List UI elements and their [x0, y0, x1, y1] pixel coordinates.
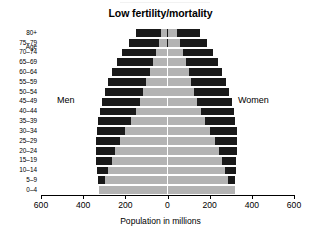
pyramid-row: [41, 68, 294, 76]
bar-men-inner: [108, 167, 167, 175]
bar-men-inner: [136, 108, 168, 116]
bar-women-inner: [168, 137, 215, 145]
bar-men-inner: [105, 176, 167, 184]
series-label-women: Women: [238, 95, 269, 105]
age-tick-label: 0–4: [26, 187, 37, 193]
bar-men-inner: [115, 147, 168, 155]
chart-title: Low fertility/mortality: [0, 7, 321, 19]
pyramid-row: [41, 39, 294, 47]
age-tick-label: 40–44: [19, 108, 37, 114]
pyramid-row: [41, 29, 294, 37]
bar-women-inner: [168, 98, 198, 106]
bar-women-inner: [168, 88, 195, 96]
age-tick-label: 20–24: [19, 148, 37, 154]
x-tick-label: 200: [202, 201, 216, 210]
pyramid-row: [41, 58, 294, 66]
x-tick: [83, 195, 84, 199]
bar-women-inner: [168, 117, 206, 125]
pyramid-row: [41, 147, 294, 155]
pyramid-row: [41, 157, 294, 165]
bar-men-inner: [153, 58, 168, 66]
x-tick: [294, 195, 295, 199]
bar-women-inner: [168, 176, 229, 184]
bar-men-inner: [159, 39, 167, 47]
age-axis: Age 80+75–7970–7465–6960–6455–5950–5445–…: [0, 28, 41, 195]
age-tick-label: 45–49: [19, 98, 37, 104]
pyramid-row: [41, 176, 294, 184]
age-tick-label: 50–54: [19, 89, 37, 95]
bar-women-inner: [168, 78, 192, 86]
age-tick-label: 80+: [26, 30, 37, 36]
x-tick-label: 200: [118, 201, 132, 210]
bar-men-inner: [143, 88, 167, 96]
pyramid-row: [41, 117, 294, 125]
age-tick-label: 35–39: [19, 118, 37, 124]
age-tick-label: 60–64: [19, 69, 37, 75]
bar-men-inner: [120, 137, 167, 145]
x-tick: [125, 195, 126, 199]
age-tick-label: 30–34: [19, 128, 37, 134]
bar-women-inner: [168, 167, 225, 175]
pyramid-row: [41, 108, 294, 116]
age-tick-label: 25–29: [19, 138, 37, 144]
x-tick-label: 600: [287, 201, 301, 210]
x-tick-label: 0: [165, 201, 170, 210]
pyramid-row: [41, 167, 294, 175]
bar-men-inner: [140, 98, 167, 106]
x-tick-label: 400: [76, 201, 90, 210]
x-tick: [210, 195, 211, 199]
clipped-edge-artifact: [120, 2, 210, 3]
bar-women-inner: [168, 58, 186, 66]
bar-women-inner: [168, 186, 235, 194]
bar-men-inner: [156, 49, 168, 57]
bar-women-inner: [168, 127, 211, 135]
series-label-men: Men: [57, 95, 75, 105]
bar-women-inner: [168, 157, 222, 165]
bar-women-inner: [168, 68, 189, 76]
x-tick: [41, 195, 42, 199]
age-tick-label: 10–14: [19, 167, 37, 173]
pyramid-row: [41, 78, 294, 86]
bar-women-inner: [168, 39, 180, 47]
age-tick-label: 5–9: [26, 177, 37, 183]
pyramid-row: [41, 137, 294, 145]
population-pyramid-chart: Low fertility/mortality Age 80+75–7970–7…: [0, 0, 321, 240]
bar-men-inner: [99, 186, 168, 194]
x-tick-label: 600: [34, 201, 48, 210]
age-tick-label: 15–19: [19, 157, 37, 163]
x-tick-label: 400: [245, 201, 259, 210]
pyramid-row: [41, 49, 294, 57]
pyramid-row: [41, 127, 294, 135]
bar-women-inner: [168, 147, 219, 155]
bar-men-inner: [146, 78, 167, 86]
age-tick-label: 70–74: [19, 49, 37, 55]
bar-women-inner: [168, 108, 201, 116]
x-tick: [168, 195, 169, 199]
x-axis-title: Population in millions: [0, 216, 321, 226]
age-tick-label: 75–79: [19, 40, 37, 46]
bar-women-inner: [168, 29, 177, 37]
plot-area: [41, 28, 294, 195]
bar-men-inner: [131, 117, 168, 125]
bar-men-inner: [125, 127, 167, 135]
bar-men-inner: [150, 68, 168, 76]
age-tick-label: 65–69: [19, 59, 37, 65]
pyramid-row: [41, 186, 294, 194]
x-tick: [252, 195, 253, 199]
bar-men-inner: [112, 157, 168, 165]
bar-women-inner: [168, 49, 183, 57]
age-tick-label: 55–59: [19, 79, 37, 85]
